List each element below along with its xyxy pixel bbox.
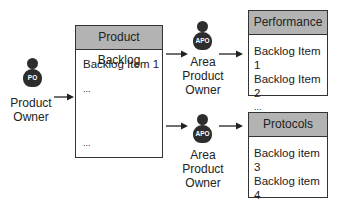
protocols-backlog-box: Protocols Backlog item 3 Backlog item 4 …: [248, 112, 328, 198]
person-head-icon: [197, 114, 208, 125]
backlog-item: Backlog Item 2: [254, 72, 327, 100]
arrow-icon: [219, 121, 243, 131]
backlog-item: ...: [83, 82, 162, 96]
apo-badge: APO: [193, 32, 212, 50]
arrow-icon: [219, 49, 243, 59]
arrow-icon: [166, 121, 188, 131]
product-backlog-title: Product Backlog: [76, 26, 162, 50]
backlog-item: ...: [254, 202, 327, 207]
backlog-item: Backlog Item 1: [254, 44, 327, 72]
backlog-item: Backlog Item 1: [83, 57, 162, 71]
area-product-owner-icon: APO: [192, 21, 212, 55]
apo-badge: APO: [193, 125, 212, 143]
area-product-owner-label: Area Product Owner: [178, 148, 228, 190]
product-owner-icon: PO: [22, 58, 42, 92]
product-backlog-box: Product Backlog Backlog Item 1 ... ...: [75, 25, 163, 158]
performance-title: Performance: [249, 11, 327, 35]
arrow-icon: [54, 92, 74, 102]
performance-backlog-box: Performance Backlog Item 1 Backlog Item …: [248, 10, 328, 96]
backlog-item: Backlog item 4: [254, 174, 327, 202]
product-owner-label: Product Owner: [3, 96, 59, 124]
backlog-item: Backlog item 3: [254, 146, 327, 174]
protocols-title: Protocols: [249, 113, 327, 137]
person-head-icon: [27, 58, 38, 69]
area-product-owner-icon: APO: [192, 114, 212, 148]
person-head-icon: [197, 21, 208, 32]
backlog-item: ...: [83, 136, 162, 150]
area-product-owner-label: Area Product Owner: [178, 55, 228, 97]
po-badge: PO: [23, 69, 42, 87]
